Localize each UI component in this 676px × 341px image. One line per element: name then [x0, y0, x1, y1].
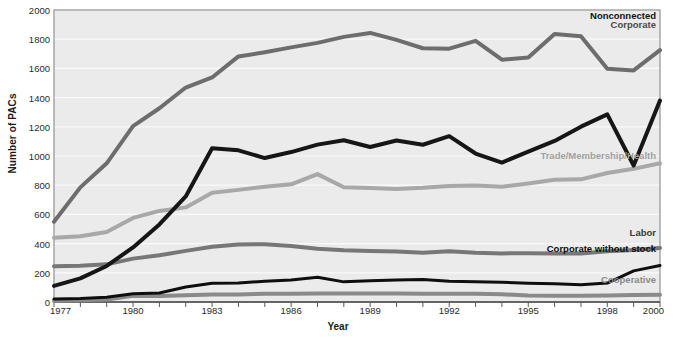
series-label-nonconnected: Nonconnected [590, 9, 656, 20]
series-label-corporate-without-stock: Corporate without stock [547, 242, 656, 253]
y-tick-label: 200 [6, 267, 50, 278]
pac-growth-line-chart: 0200400600800100012001400160018002000 19… [0, 0, 676, 341]
y-axis-title: Number of PACs [7, 74, 18, 194]
x-tick-label: 1998 [597, 305, 618, 316]
x-tick-label: 1989 [360, 305, 381, 316]
x-tick-label: 1977 [50, 305, 71, 316]
series-label-labor: Labor [630, 226, 656, 237]
y-tick-label: 600 [6, 209, 50, 220]
x-tick-label: 1992 [439, 305, 460, 316]
x-tick-label: 1986 [281, 305, 302, 316]
x-tick-label: 2000 [643, 305, 664, 316]
x-axis-title: Year [0, 321, 676, 332]
series-label-corporate: Corporate [611, 19, 656, 30]
x-tick-label: 1980 [122, 305, 143, 316]
y-tick-label: 400 [6, 238, 50, 249]
y-tick-label: 2000 [6, 5, 50, 16]
series-label-trade-membership-health: Trade/Membership/Health [540, 150, 656, 161]
y-tick-label: 1800 [6, 34, 50, 45]
y-tick-label: 0 [6, 297, 50, 308]
chart-canvas [0, 0, 676, 341]
y-tick-label: 1600 [6, 63, 50, 74]
series-label-cooperative: Cooperative [601, 273, 656, 284]
x-tick-label: 1983 [202, 305, 223, 316]
x-tick-label: 1995 [518, 305, 539, 316]
